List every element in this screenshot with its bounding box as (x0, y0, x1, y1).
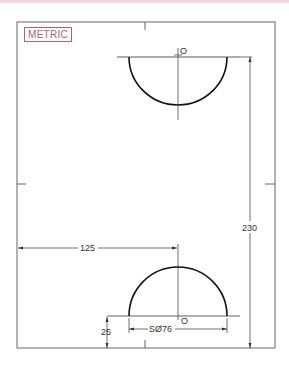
dim-125-label: 125 (80, 243, 95, 253)
dim-230 (240, 57, 252, 348)
dim-25-label: 25 (101, 327, 111, 337)
bottom-center-label: O (181, 316, 188, 326)
dim-diameter-label: SØ76 (149, 324, 172, 334)
dim-230-label: 230 (242, 223, 257, 233)
dim-diameter (129, 318, 227, 333)
drawing-canvas: O O 125 SØ76 25 230 (0, 0, 289, 367)
top-center-label: O (180, 46, 187, 56)
drawing-frame (17, 22, 275, 348)
dim-125 (18, 247, 177, 250)
bottom-semicircle (107, 244, 240, 320)
top-semicircle (117, 48, 240, 120)
